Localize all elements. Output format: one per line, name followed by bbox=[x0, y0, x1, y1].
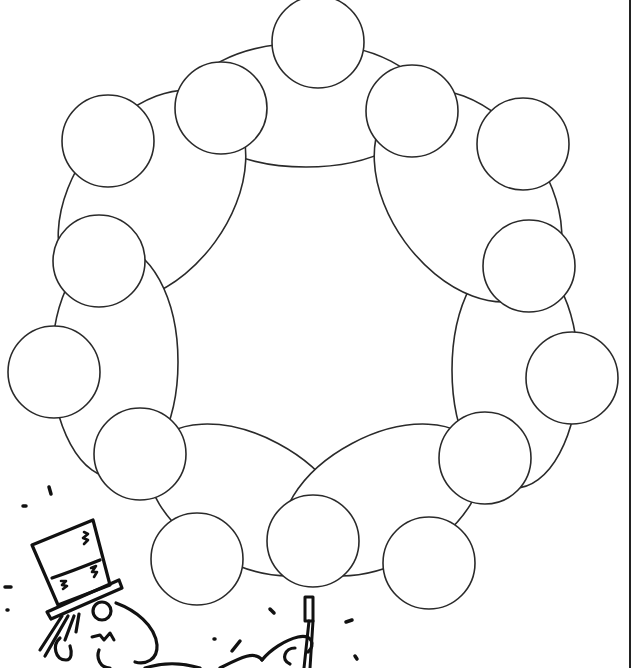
circle-12[interactable] bbox=[151, 513, 243, 605]
circle-6[interactable] bbox=[53, 215, 145, 307]
blank-circle[interactable] bbox=[8, 326, 100, 418]
circle-14[interactable] bbox=[383, 517, 475, 609]
circle-5[interactable] bbox=[477, 98, 569, 190]
circle-1[interactable] bbox=[272, 0, 364, 88]
page-border-line bbox=[629, 0, 631, 668]
blank-circle[interactable] bbox=[175, 62, 267, 154]
blank-circle[interactable] bbox=[526, 332, 618, 424]
circle-3[interactable] bbox=[366, 65, 458, 157]
blank-circle[interactable] bbox=[439, 412, 531, 504]
circle-2[interactable] bbox=[175, 62, 267, 154]
blank-circle[interactable] bbox=[272, 0, 364, 88]
circle-7[interactable] bbox=[483, 220, 575, 312]
blank-circle[interactable] bbox=[94, 408, 186, 500]
blank-circle[interactable] bbox=[62, 95, 154, 187]
circle-4[interactable] bbox=[62, 95, 154, 187]
blank-circle[interactable] bbox=[366, 65, 458, 157]
circle-8[interactable] bbox=[8, 326, 100, 418]
blank-circle[interactable] bbox=[483, 220, 575, 312]
blank-circle[interactable] bbox=[53, 215, 145, 307]
worksheet-canvas bbox=[0, 0, 634, 668]
blank-circle[interactable] bbox=[477, 98, 569, 190]
circle-10[interactable] bbox=[94, 408, 186, 500]
blank-circle[interactable] bbox=[383, 517, 475, 609]
blank-circle[interactable] bbox=[151, 513, 243, 605]
blank-circle[interactable] bbox=[267, 495, 359, 587]
circle-9[interactable] bbox=[526, 332, 618, 424]
circle-13[interactable] bbox=[267, 495, 359, 587]
circle-11[interactable] bbox=[439, 412, 531, 504]
